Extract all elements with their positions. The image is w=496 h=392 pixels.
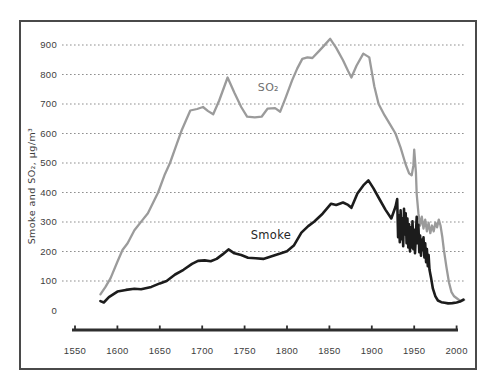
y-tick-label: 400 xyxy=(40,187,57,198)
x-tick-label: 1800 xyxy=(276,345,298,356)
chart: 0100200300400500600700800900155016001650… xyxy=(0,0,496,392)
x-tick-label: 1700 xyxy=(191,345,213,356)
x-tick-label: 1750 xyxy=(233,345,255,356)
y-tick-label: 100 xyxy=(40,275,57,286)
so2-line xyxy=(100,39,464,301)
x-tick-label: 1950 xyxy=(403,345,425,356)
y-tick-label: 500 xyxy=(40,157,57,168)
y-tick-label: 600 xyxy=(40,128,57,139)
y-tick-label: 700 xyxy=(40,98,57,109)
x-tick-label: 1900 xyxy=(361,345,383,356)
x-tick-label: 1650 xyxy=(149,345,171,356)
x-tick-label: 2000 xyxy=(445,345,467,356)
y-tick-label: 900 xyxy=(40,39,57,50)
so2-label: SO₂ xyxy=(258,81,279,94)
x-tick-label: 1850 xyxy=(318,345,340,356)
y-tick-label: 0 xyxy=(51,305,57,316)
x-tick-label: 1600 xyxy=(106,345,128,356)
smoke-label: Smoke xyxy=(251,228,291,242)
y-tick-label: 200 xyxy=(40,246,57,257)
plot-svg: 0100200300400500600700800900155016001650… xyxy=(0,0,496,392)
y-axis-title: Smoke and SO₂, µg/m³ xyxy=(26,128,37,245)
y-tick-label: 800 xyxy=(40,69,57,80)
x-tick-label: 1550 xyxy=(64,345,86,356)
y-tick-label: 300 xyxy=(40,216,57,227)
